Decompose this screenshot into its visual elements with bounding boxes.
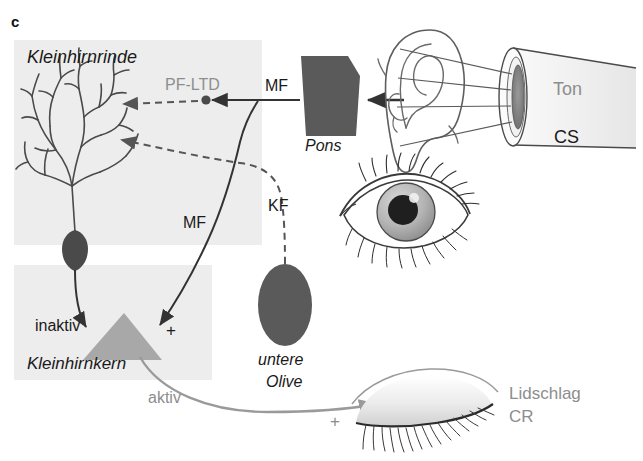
aktiv-label: aktiv (148, 390, 181, 406)
pons (301, 56, 360, 136)
open-eye (340, 153, 479, 268)
cs-label: CS (554, 128, 579, 146)
cone-membrane (512, 65, 524, 129)
kf-label: KF (268, 198, 288, 214)
lidschlag-label-line2: CR (509, 408, 534, 425)
cerebellar-nucleus-label: Kleinhirnkern (27, 355, 126, 372)
inaktiv-label: inaktiv (35, 318, 80, 334)
loudspeaker-cone (397, 48, 636, 148)
plus-sign-eyelid: + (330, 413, 340, 430)
mossy-fiber-junction-dot (201, 95, 210, 104)
plus-sign-nucleus: + (166, 322, 176, 339)
lidschlag-label-line1: Lidschlag (509, 385, 581, 402)
inferior-olive (258, 264, 312, 346)
closed-eye (352, 369, 498, 452)
mf-label-top: MF (265, 78, 288, 94)
inferior-olive-label-line1: untere (258, 352, 303, 368)
inferior-olive-label-line2: Olive (266, 374, 302, 390)
ton-label: Ton (553, 80, 582, 98)
sound-rays (397, 49, 512, 146)
figure-canvas: c Kleinhirnrinde Kleinhirnkern PF-LTD MF… (0, 0, 643, 461)
pf-ltd-label: PF-LTD (165, 77, 220, 93)
pons-label: Pons (305, 138, 341, 154)
eye-highlight (409, 193, 419, 203)
mf-label-mid: MF (183, 215, 206, 231)
cerebellar-cortex-label: Kleinhirnrinde (27, 48, 137, 66)
panel-letter: c (11, 14, 19, 29)
